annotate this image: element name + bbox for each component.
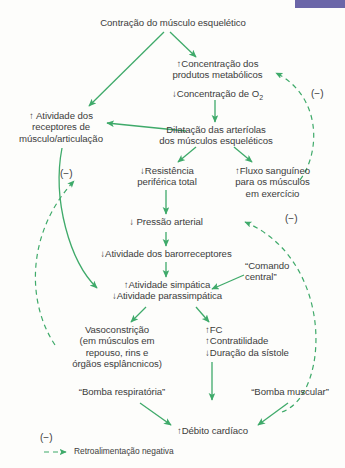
node-efeitos-cardiacos: ↑FC ↑Contratilidade ↓Duração da sístole (205, 324, 330, 358)
node-contracao-musculo-esqueletico: Contração do músculo esquelético (78, 17, 268, 28)
edge-simpatica-to-fc (196, 307, 209, 322)
node-debito-cardiaco: ↑Débito cardíaco (155, 425, 270, 436)
node-produtos-metabolicos: ↑Concentração dos produtos metabólicos (160, 58, 275, 81)
node-dilatacao-arteriolas: Dilatação das arteríolas dos músculos es… (140, 124, 292, 147)
minus-sign-metabolicos-feedback: (−) (311, 88, 324, 99)
node-pressao-arterial: ↓ Pressão arterial (106, 216, 226, 227)
edge-dilatacao-to-fluxo (234, 147, 252, 162)
diagram-canvas: Contração do músculo esquelético ↑Concen… (0, 0, 345, 468)
edge-contracao-to-metabolicos (170, 32, 196, 57)
node-receptores-musculo-articulacao: ↑ Atividade dos receptores de músculo/ar… (6, 110, 116, 144)
edge-dilatacao-to-resistencia (178, 147, 196, 162)
header-accent-bar (295, 0, 345, 8)
node-fluxo-sanguineo: ↑Fluxo sanguíneo para os músculos em exe… (220, 165, 325, 199)
edge-simpatica-to-vasoconstricao (131, 307, 146, 322)
o2-subscript: 2 (259, 94, 263, 101)
node-resistencia-periferica: ↓Resistência periférica total (117, 165, 217, 188)
edge-bomba-respiratoria-to-debito (140, 403, 171, 425)
feedback-left-to-receptores (35, 181, 74, 345)
node-vasoconstricao: Vasoconstrição (em músculos em repouso, … (52, 324, 182, 370)
node-atividade-barorreceptores: ↓Atividade dos barorreceptores (66, 248, 266, 259)
node-concentracao-o2-text: ↓Concentração de O (172, 88, 259, 99)
node-atividade-simpatica-parassimpatica: ↑Atividade simpática ↓Atividade parassim… (82, 279, 252, 302)
node-bomba-respiratoria: “Bomba respiratória” (62, 386, 182, 397)
legend-label-retroalimentacao: Retroalimentação negativa (74, 446, 174, 456)
node-concentracao-o2: ↓Concentração de O2 (150, 88, 285, 103)
minus-sign-pressao-feedback: (−) (285, 213, 298, 224)
node-bomba-muscular: “Bomba muscular” (240, 386, 340, 397)
node-comando-central: “Comando central” (245, 260, 340, 283)
minus-sign-left-feedback: (−) (60, 168, 73, 179)
edge-bomba-muscular-to-debito (258, 403, 288, 425)
legend-minus-sign: (−) (40, 432, 53, 443)
